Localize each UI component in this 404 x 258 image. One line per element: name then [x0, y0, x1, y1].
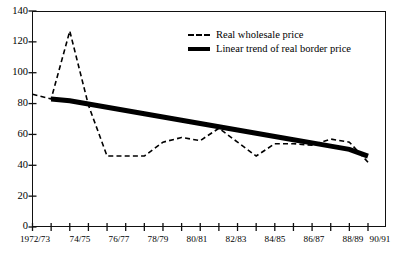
series-linear-trend-of-real-border-price — [51, 99, 368, 156]
dashed-line-sample-icon — [188, 29, 210, 40]
chart-container: 140 120 100 80 60 40 20 0 1972/73 74/75 … — [0, 0, 404, 258]
legend-item-real-wholesale-price: Real wholesale price — [188, 28, 384, 41]
solid-bold-line-sample-icon — [188, 43, 210, 54]
y-axis-ticks — [29, 11, 37, 227]
legend-label-linear-trend-of-real-border-price: Linear trend of real border price — [216, 43, 351, 54]
legend-item-linear-trend-of-real-border-price: Linear trend of real border price — [188, 42, 384, 55]
x-axis-ticks — [33, 223, 369, 231]
legend-label-real-wholesale-price: Real wholesale price — [216, 29, 303, 40]
legend: Real wholesale price Linear trend of rea… — [188, 28, 384, 56]
